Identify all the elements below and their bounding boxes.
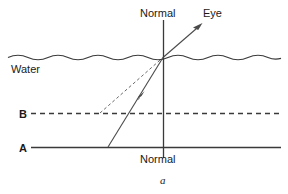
incident-ray-line — [108, 58, 163, 148]
line-a-label: A — [19, 142, 27, 154]
figure-caption: a — [160, 174, 166, 186]
eye-label: Eye — [203, 7, 222, 19]
eye-ray-arrowhead — [193, 23, 203, 30]
line-b-label: B — [19, 108, 27, 120]
normal-bottom-label: Normal — [140, 153, 175, 165]
water-label: Water — [11, 63, 40, 75]
eye-ray-line — [163, 26, 200, 58]
water-surface-wavy-line — [8, 55, 281, 59]
normal-top-label: Normal — [140, 7, 175, 19]
refraction-diagram-figure: Normal Eye Water B A Normal a — [0, 0, 288, 194]
diagram-canvas: Normal Eye Water B A Normal a — [0, 0, 288, 194]
virtual-ray-dashed-line — [100, 58, 163, 114]
